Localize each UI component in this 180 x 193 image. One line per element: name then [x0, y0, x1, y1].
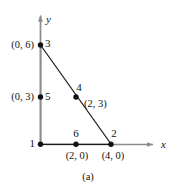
figure-container: y x (0, 6) 3 (0, 3) 5 4 (2, 3) 1 6 (2, 0… [0, 0, 180, 193]
node-dot-3 [38, 42, 43, 47]
node-dot-4 [73, 94, 78, 99]
node-coord-5: (0, 3) [11, 92, 34, 103]
node-coord-4: (2, 3) [84, 99, 107, 110]
node-label-5: 5 [45, 91, 51, 102]
node-label-4: 4 [76, 82, 82, 93]
node-dot-2 [108, 142, 113, 147]
node-dot-1 [38, 142, 43, 147]
node-coord-6: (2, 0) [66, 151, 89, 162]
node-label-6: 6 [73, 128, 79, 139]
node-dot-5 [38, 94, 43, 99]
y-axis-label: y [46, 14, 51, 25]
node-coord-3: (0, 6) [11, 40, 34, 51]
node-label-3: 3 [45, 38, 51, 49]
figure-caption: (a) [82, 172, 94, 183]
node-coord-2: (4, 0) [102, 151, 125, 162]
x-axis-label: x [161, 139, 166, 150]
node-label-1: 1 [30, 138, 36, 149]
node-label-2: 2 [111, 128, 117, 139]
node-dot-6 [73, 142, 78, 147]
